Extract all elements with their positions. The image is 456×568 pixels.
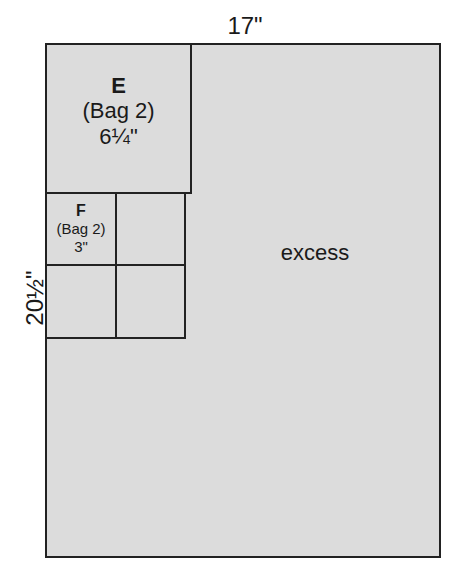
piece-e: E (Bag 2) 6¼" bbox=[45, 43, 192, 194]
piece-f-1: F (Bag 2) 3" bbox=[45, 192, 117, 266]
piece-f-size: 3" bbox=[47, 238, 115, 255]
piece-f-bag: (Bag 2) bbox=[47, 220, 115, 237]
piece-e-letter: E bbox=[47, 73, 190, 98]
width-dimension-label: 17" bbox=[200, 12, 290, 40]
piece-f-3 bbox=[45, 264, 117, 339]
piece-f-4 bbox=[115, 264, 186, 339]
piece-e-size: 6¼" bbox=[47, 124, 190, 149]
excess-label: excess bbox=[260, 240, 370, 266]
piece-f-2 bbox=[115, 192, 186, 266]
piece-f-letter: F bbox=[47, 202, 115, 220]
piece-e-bag: (Bag 2) bbox=[47, 98, 190, 123]
